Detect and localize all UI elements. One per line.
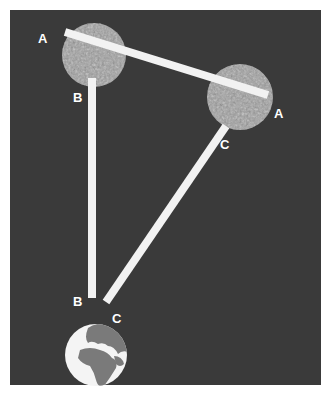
label-c-bottom: C	[112, 311, 122, 326]
label-a-left: A	[38, 31, 48, 46]
label-c-right: C	[220, 137, 230, 152]
three-body-diagram: A B A C B C	[0, 0, 331, 398]
label-b-top: B	[73, 90, 82, 105]
label-a-right: A	[274, 106, 284, 121]
label-b-bottom: B	[73, 294, 82, 309]
